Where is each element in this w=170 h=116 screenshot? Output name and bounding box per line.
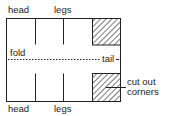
label-corners: corners xyxy=(127,87,159,97)
label-head-top: head xyxy=(8,5,29,15)
cut-out-corner-top xyxy=(93,19,121,46)
paper-template-diagram: head legs fold tail cut out corners head… xyxy=(0,0,170,116)
label-tail: tail xyxy=(102,54,114,64)
label-head-bottom: head xyxy=(8,104,29,114)
label-legs-bottom: legs xyxy=(54,104,71,114)
template-drawing xyxy=(0,0,170,116)
label-legs-top: legs xyxy=(54,5,71,15)
label-fold: fold xyxy=(10,48,25,58)
